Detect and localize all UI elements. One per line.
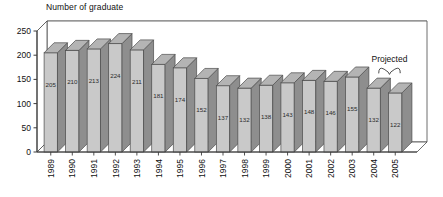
x-tick-label: 2000: [283, 159, 293, 178]
bar: [367, 78, 390, 152]
bar: [44, 43, 67, 152]
bar-front-face: [195, 78, 208, 152]
bar: [238, 78, 261, 152]
bar: [389, 83, 412, 152]
bar-front-face: [66, 50, 79, 152]
x-tick-label: 1990: [67, 159, 77, 178]
data-label: 132: [369, 116, 380, 123]
bar-front-face: [173, 68, 186, 152]
data-label: 152: [196, 106, 207, 113]
y-tick-label: 0: [26, 147, 31, 157]
y-tick-label: 200: [17, 50, 31, 60]
x-tick-label: 1993: [132, 159, 142, 178]
bar-chart-plot: 050100150200250 205210213224211181174152…: [0, 0, 443, 197]
x-tick-label: 1998: [240, 159, 250, 178]
bar-front-face: [324, 81, 337, 152]
bar-front-face: [152, 64, 165, 152]
x-tick-label: 2003: [347, 159, 357, 178]
bar-front-face: [109, 44, 122, 152]
data-label: 138: [261, 113, 272, 120]
y-tick-label: 50: [22, 123, 32, 133]
bar: [130, 40, 153, 152]
bar-front-face: [302, 80, 315, 152]
data-label: 211: [132, 78, 142, 85]
bar: [109, 34, 132, 152]
x-tick-label: 1997: [218, 159, 228, 178]
y-tick-label: 100: [17, 99, 31, 109]
data-label: 132: [239, 116, 250, 123]
bar-front-face: [130, 50, 143, 152]
data-label: 146: [325, 109, 336, 116]
projected-annotation-label: Projected: [372, 54, 408, 64]
data-label: 224: [110, 72, 121, 79]
data-label: 210: [67, 78, 78, 85]
bar: [152, 54, 175, 152]
x-tick-label: 1992: [111, 159, 121, 178]
x-tick-label: 2005: [390, 159, 400, 178]
x-axis-ticks: 1989199019911992199319941995199619971998…: [46, 152, 400, 178]
bar: [87, 39, 110, 152]
data-label: 155: [347, 105, 358, 112]
data-label: 205: [46, 81, 57, 88]
y-axis-ticks: 050100150200250: [17, 26, 37, 157]
x-tick-label: 1996: [197, 159, 207, 178]
bar-front-face: [44, 53, 57, 152]
bar-front-face: [87, 49, 100, 152]
x-tick-label: 1991: [89, 159, 99, 178]
x-tick-label: 2002: [326, 159, 336, 178]
data-label: 174: [175, 96, 186, 103]
x-tick-label: 1995: [175, 159, 185, 178]
data-label: 122: [390, 121, 401, 128]
data-label: 143: [282, 111, 293, 118]
chart-container: Number of graduate 050100150200250 20521…: [0, 0, 443, 197]
x-tick-label: 1994: [154, 159, 164, 178]
x-tick-label: 2004: [369, 159, 379, 178]
data-label: 181: [153, 92, 164, 99]
x-tick-label: 1999: [261, 159, 271, 178]
bar: [173, 58, 196, 152]
bar-side-face: [402, 83, 412, 152]
data-label: 148: [304, 108, 315, 115]
bar-front-face: [346, 77, 359, 152]
data-label: 213: [89, 77, 100, 84]
y-tick-label: 150: [17, 74, 31, 84]
x-tick-label: 2001: [304, 159, 314, 178]
x-tick-label: 1989: [46, 159, 56, 178]
y-tick-label: 250: [17, 26, 31, 36]
data-label: 137: [218, 114, 229, 121]
bar: [66, 40, 89, 152]
